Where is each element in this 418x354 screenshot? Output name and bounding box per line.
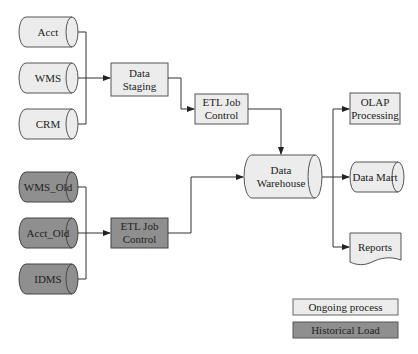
connector-historical-etl-to-warehouse	[168, 177, 243, 233]
legend: Ongoing process Historical Load	[293, 299, 398, 338]
etl-diagram: Acct WMS CRM Data Staging ETL Job Contro…	[0, 0, 418, 354]
data-mart-label: Data Mart	[353, 171, 398, 183]
source-crm-label: CRM	[36, 118, 61, 130]
source-wms-label: WMS	[35, 72, 61, 84]
olap-label-1: OLAP	[361, 96, 390, 108]
legend-historical: Historical Load	[293, 322, 398, 338]
etl-historical-label-2: Control	[123, 233, 157, 245]
data-staging-label-2: Staging	[123, 80, 157, 92]
source-acct: Acct	[19, 17, 78, 47]
connector-historical-to-etl	[78, 187, 110, 279]
source-idms-label: IDMS	[34, 273, 62, 285]
etl-ongoing-label-1: ETL Job	[203, 96, 241, 108]
data-staging-box: Data Staging	[111, 63, 168, 96]
etl-historical-label-1: ETL Job	[121, 220, 159, 232]
source-crm: CRM	[19, 109, 78, 139]
etl-ongoing-label-2: Control	[205, 109, 239, 121]
data-warehouse-label-2: Warehouse	[257, 177, 306, 189]
connector-etl-to-warehouse	[248, 109, 281, 154]
data-warehouse-label-1: Data	[271, 164, 292, 176]
source-wms-old: WMS_Old	[19, 172, 78, 202]
connector-warehouse-to-outputs	[322, 109, 349, 247]
source-acct-old-label: Acct_Old	[27, 227, 70, 239]
legend-historical-label: Historical Load	[311, 324, 380, 336]
source-wms: WMS	[19, 63, 78, 93]
etl-job-control-historical: ETL Job Control	[111, 218, 168, 248]
etl-job-control-ongoing: ETL Job Control	[195, 94, 248, 124]
olap-processing-box: OLAP Processing	[350, 93, 400, 124]
legend-ongoing-label: Ongoing process	[308, 301, 382, 313]
connector-staging-to-etl	[168, 78, 194, 109]
connector-sources-to-staging	[78, 32, 110, 124]
reports-document: Reports	[350, 233, 401, 265]
data-mart: Data Mart	[350, 162, 404, 192]
data-staging-label-1: Data	[129, 67, 150, 79]
source-acct-label: Acct	[38, 26, 59, 38]
olap-label-2: Processing	[351, 109, 399, 121]
data-warehouse: Data Warehouse	[244, 155, 322, 198]
source-acct-old: Acct_Old	[19, 218, 78, 248]
source-wms-old-label: WMS_Old	[24, 181, 73, 193]
source-idms: IDMS	[19, 264, 78, 294]
legend-ongoing: Ongoing process	[293, 299, 398, 315]
reports-label: Reports	[358, 241, 392, 253]
